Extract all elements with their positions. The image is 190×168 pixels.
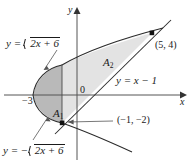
label-tick-minus-three: −3 [22,96,33,106]
figure-canvas: y = 2x + 6 y = −2x + 6 y = x − 1 (5, 4) … [0,0,190,168]
label-lower-branch-equation: y = −2x + 6 [3,143,65,156]
label-region-A2: A2 [103,57,113,70]
point-marker-minus1-minus2 [60,121,65,126]
leader-lower-curve-label [33,117,48,140]
y-axis-arrowhead [74,7,81,14]
arrowhead-upper-curve [44,66,49,70]
label-point-minus1-minus2: (−1, −2) [117,115,150,125]
point-marker-5-4 [150,31,155,36]
label-axis-x: x [180,97,184,107]
label-axis-y: y [68,5,72,15]
leader-point-minus1-minus2 [68,121,113,122]
label-upper-branch-equation: y = 2x + 6 [6,36,60,49]
label-line-equation: y = x − 1 [116,75,157,86]
label-point-5-4: (5, 4) [155,40,177,50]
label-region-A1: A1 [53,108,63,121]
label-origin: 0 [80,85,85,95]
